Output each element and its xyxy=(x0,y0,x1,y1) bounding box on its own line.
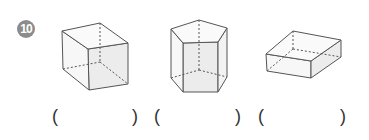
answer-1-open-paren: ( xyxy=(52,106,58,127)
answer-2-close-paren: ) xyxy=(235,106,241,127)
answer-2-open-paren: ( xyxy=(154,106,160,127)
answer-2-blank[interactable] xyxy=(162,106,232,128)
answer-3-open-paren: ( xyxy=(258,106,264,127)
cube-figure xyxy=(62,23,128,90)
answer-3-blank[interactable] xyxy=(266,106,336,128)
answer-1-close-paren: ) xyxy=(132,106,138,127)
flat-box-figure xyxy=(266,31,341,78)
answer-3-close-paren: ) xyxy=(340,106,346,127)
answer-1-blank[interactable] xyxy=(60,106,130,128)
pentagonal-prism-figure xyxy=(171,20,227,92)
